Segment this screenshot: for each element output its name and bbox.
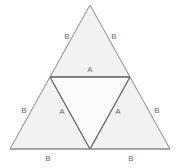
- edge-label-b-base-left: B: [45, 155, 51, 163]
- triangle-midsegment-diagram: B B A B A A B B B: [0, 0, 180, 168]
- edge-label-b-base-right: B: [128, 155, 134, 163]
- edge-label-a-inner-right: A: [115, 108, 121, 116]
- triangle-figure: [0, 0, 180, 168]
- edge-label-b-side-left: B: [21, 107, 27, 115]
- edge-label-a-inner-left: A: [59, 108, 65, 116]
- edge-label-a-top-mid: A: [87, 66, 93, 74]
- edge-label-b-side-right: B: [154, 107, 160, 115]
- edge-label-b-upper-left: B: [64, 33, 70, 41]
- edge-label-b-upper-right: B: [111, 33, 117, 41]
